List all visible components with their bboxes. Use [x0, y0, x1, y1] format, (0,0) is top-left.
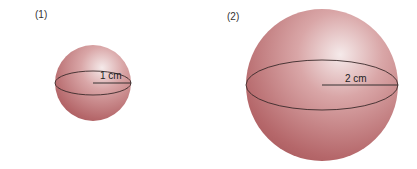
radius-label-2: 2 cm	[345, 73, 367, 84]
sphere-2: 2 cm	[246, 9, 398, 161]
spheres-diagram: 1 cm 2 cm	[0, 0, 417, 169]
sphere-1: 1 cm	[55, 45, 131, 121]
radius-label-1: 1 cm	[100, 70, 122, 81]
